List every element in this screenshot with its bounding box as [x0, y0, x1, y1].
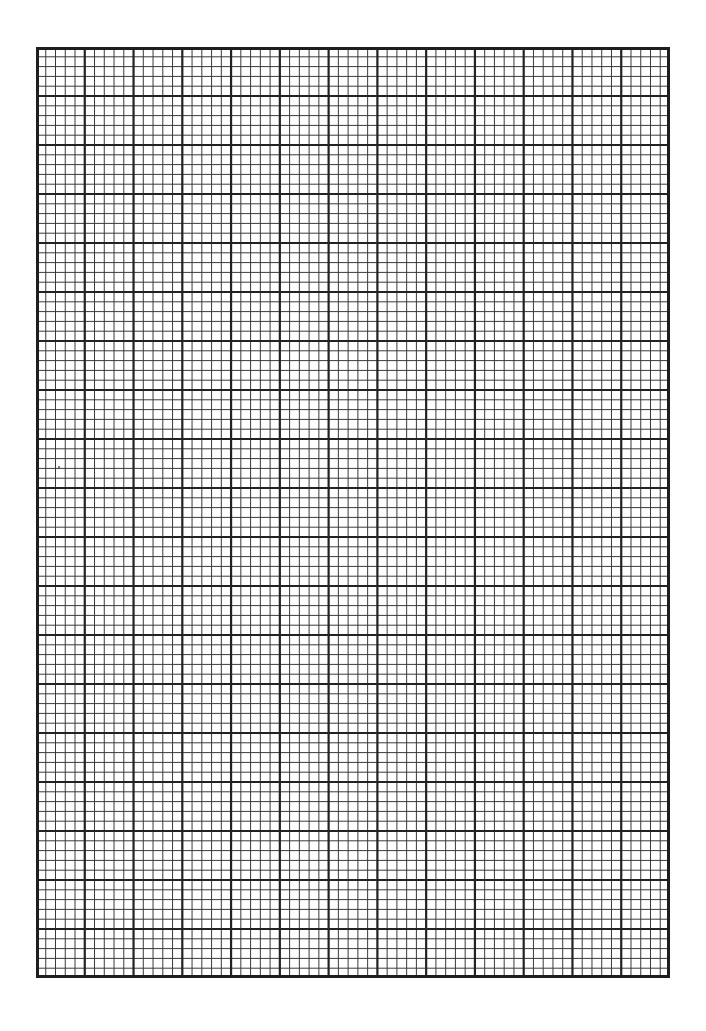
grid-border — [38, 49, 669, 977]
grid-lines — [36, 47, 670, 978]
page — [0, 0, 706, 1031]
graph-paper-grid — [36, 47, 670, 978]
scan-speck — [58, 466, 60, 468]
